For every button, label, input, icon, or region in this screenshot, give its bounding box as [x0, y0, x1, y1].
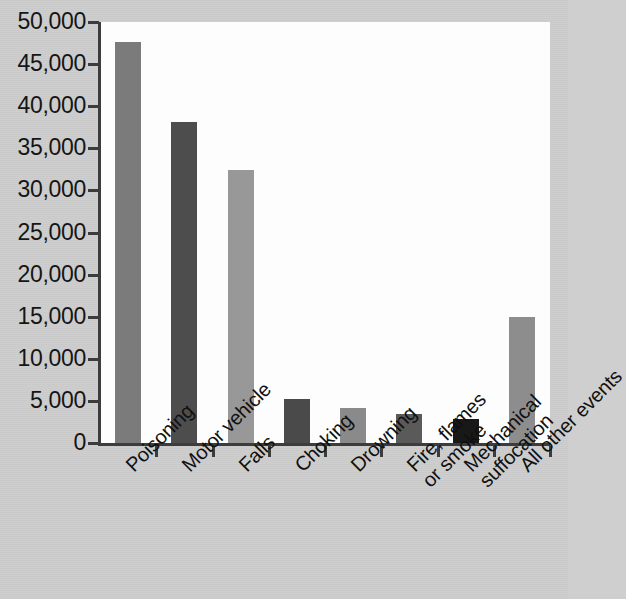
y-axis-tick-label: 40,000 — [2, 94, 86, 117]
y-axis-tick-label: 45,000 — [2, 52, 86, 75]
y-axis-tick-label: 20,000 — [2, 263, 86, 286]
y-axis-tick — [88, 105, 99, 108]
bar — [115, 42, 141, 443]
bar — [284, 399, 310, 443]
y-axis-tick — [88, 189, 99, 192]
y-axis-tick-label: 15,000 — [2, 305, 86, 328]
bar — [171, 122, 197, 443]
y-axis-tick-label: 25,000 — [2, 221, 86, 244]
y-axis-tick — [88, 400, 99, 403]
y-axis-tick — [88, 274, 99, 277]
y-axis-tick — [88, 63, 99, 66]
y-axis-tick-label: 35,000 — [2, 136, 86, 159]
y-axis-tick-label: 5,000 — [2, 389, 86, 412]
y-axis-tick — [88, 442, 99, 445]
y-axis-tick — [88, 358, 99, 361]
y-axis-tick — [88, 21, 99, 24]
y-axis-tick — [88, 316, 99, 319]
y-axis-tick-label: 10,000 — [2, 347, 86, 370]
y-axis-tick-label: 50,000 — [2, 10, 86, 33]
y-axis-tick — [88, 147, 99, 150]
bars-group — [100, 22, 550, 443]
y-axis-tick-label: 0 — [2, 431, 86, 454]
y-axis-tick — [88, 232, 99, 235]
y-axis-tick-label: 30,000 — [2, 178, 86, 201]
